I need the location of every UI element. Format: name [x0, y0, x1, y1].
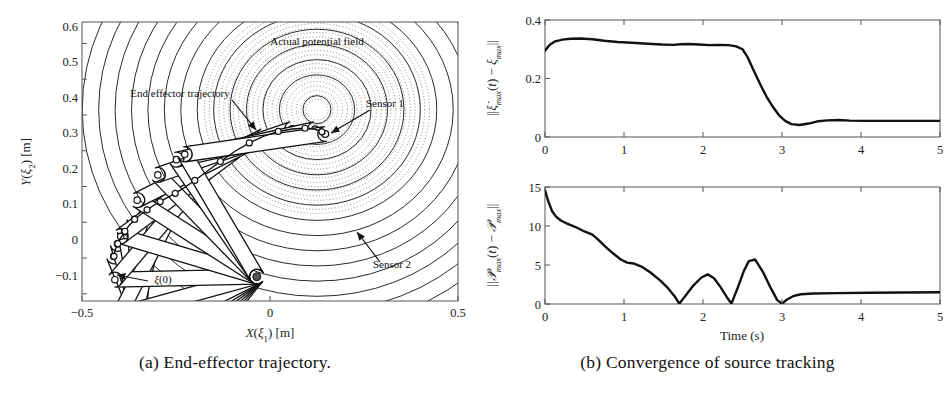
ytick-label: −0.1: [55, 269, 78, 283]
chart-a-svg: 0.6 0.5 0.4 0.3 0.2 0.1 0 −0.1 −0.5 0 0.…: [0, 0, 470, 350]
y-axis-title-b1: ||ξ̇max(t) − ξmax||: [484, 40, 503, 116]
ytick-label: 0.2: [525, 72, 541, 86]
ytick-label: 0.4: [525, 14, 541, 28]
xtick-label: 0.5: [450, 306, 466, 320]
xtick-label: 2: [700, 310, 706, 324]
caption-b: (b) Convergence of source tracking: [470, 352, 945, 373]
figure-root: 0.6 0.5 0.4 0.3 0.2 0.1 0 −0.1 −0.5 0 0.…: [0, 0, 945, 398]
ytick-label: 0.6: [62, 20, 78, 34]
x-axis-title-b: Time (s): [720, 328, 764, 343]
caption-a: (a) End-effector trajectory.: [0, 352, 470, 373]
annotation-actual-potential-field: Actual potential field: [270, 35, 364, 47]
axis-tick-labels-b2: 15 10 5 0 0 1 2 3 4 5: [529, 181, 944, 324]
xtick-label: 3: [779, 143, 785, 157]
leader-arrow-sensor-1: [331, 110, 370, 133]
xtick-label: 0: [542, 310, 548, 324]
xtick-label: 4: [858, 310, 865, 324]
ytick-label: 15: [529, 181, 542, 195]
axis-tick-labels-b1: 0.4 0.2 0 0 1 2 3 4 5: [525, 14, 943, 157]
xtick-label: 0: [267, 306, 273, 320]
annotation-end-effector-trajectory: End effector trajectory: [130, 87, 230, 99]
ytick-label: 0.1: [62, 197, 78, 211]
axis-ticks-b1: [545, 20, 940, 137]
panel-end-effector-trajectory: 0.6 0.5 0.4 0.3 0.2 0.1 0 −0.1 −0.5 0 0.…: [0, 0, 470, 398]
xtick-label: 5: [937, 310, 943, 324]
y-axis-title-b2: ||𝒫̇max(t) − 𝒫max||: [484, 204, 503, 287]
ytick-label: 0: [535, 131, 541, 145]
ytick-label: 0: [72, 233, 78, 247]
xtick-label: 1: [621, 310, 627, 324]
annotation-sensor-1: Sensor 1: [366, 97, 404, 109]
ytick-label: 0: [535, 298, 541, 312]
chart-b-svg: 0.4 0.2 0 0 1 2 3 4 5 ||ξ̇max(t) − ξmax|…: [470, 0, 945, 350]
y-axis-title-a: Y(ξ2) [m]: [18, 138, 37, 186]
x-axis-title-a: X(ξ1) [m]: [245, 325, 295, 344]
ytick-label: 0.2: [62, 162, 78, 176]
xtick-label: 5: [937, 143, 943, 157]
xtick-label: 4: [858, 143, 865, 157]
ytick-label: 5: [535, 259, 541, 273]
subplot-xi-error: 0.4 0.2 0 0 1 2 3 4 5 ||ξ̇max(t) − ξmax|…: [484, 14, 943, 157]
ytick-label: 10: [529, 220, 542, 234]
xtick-label: 2: [700, 143, 706, 157]
leader-arrow-trajectory: [232, 100, 256, 130]
xtick-label: −0.5: [71, 306, 94, 320]
axes-frame-b1: [545, 20, 940, 137]
panel-convergence-of-source-tracking: 0.4 0.2 0 0 1 2 3 4 5 ||ξ̇max(t) − ξmax|…: [470, 0, 945, 398]
xtick-label: 3: [779, 310, 785, 324]
leader-arrow-sensor-2: [357, 232, 380, 262]
annotation-xi-zero: ξ(0): [154, 273, 172, 286]
xtick-label: 1: [621, 143, 627, 157]
subplot-tau-error: 15 10 5 0 0 1 2 3 4 5 ||𝒫̇max(t) − 𝒫max|…: [484, 181, 943, 343]
xtick-label: 0: [542, 143, 548, 157]
ytick-label: 0.4: [62, 91, 78, 105]
ytick-label: 0.3: [62, 126, 78, 140]
ytick-label: 0.5: [62, 55, 78, 69]
